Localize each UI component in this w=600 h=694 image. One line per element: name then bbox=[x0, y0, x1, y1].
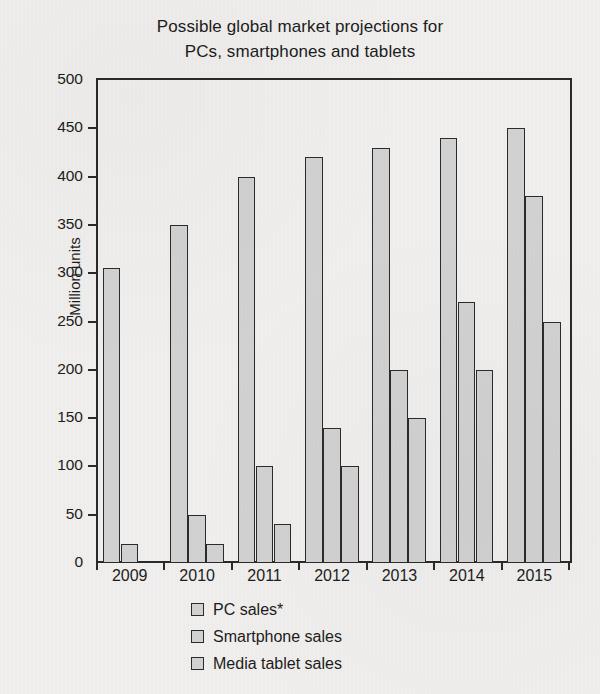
legend-label: PC sales* bbox=[213, 600, 283, 620]
bar-group-2014 bbox=[440, 80, 494, 563]
bar-2015-smartphone-sales[interactable] bbox=[525, 196, 543, 563]
legend-item[interactable]: Smartphone sales bbox=[0, 623, 600, 650]
legend-label: Media tablet sales bbox=[213, 654, 342, 674]
bar-chart-figure: Possible global market projections for P… bbox=[0, 0, 600, 694]
bar-2015-pc-sales[interactable] bbox=[507, 128, 525, 563]
bar-2010-media-tablet-sales[interactable] bbox=[206, 544, 224, 563]
legend-item-inner: Media tablet sales bbox=[191, 654, 409, 674]
y-tick-label: 250 bbox=[57, 311, 83, 331]
x-axis-label-2011: 2011 bbox=[230, 565, 300, 587]
bar-2013-smartphone-sales[interactable] bbox=[390, 370, 408, 563]
y-tick-label: 350 bbox=[57, 214, 83, 234]
y-tick-mark bbox=[88, 417, 96, 419]
chart-legend: PC sales*Smartphone salesMedia tablet sa… bbox=[0, 596, 600, 677]
x-axis-label-2013: 2013 bbox=[364, 565, 434, 587]
y-tick-mark bbox=[88, 369, 96, 371]
legend-swatch-icon bbox=[191, 657, 204, 670]
y-tick-mark bbox=[88, 127, 96, 129]
bar-2011-pc-sales[interactable] bbox=[238, 177, 256, 563]
bar-2014-smartphone-sales[interactable] bbox=[458, 302, 476, 563]
y-tick-label: 450 bbox=[57, 117, 83, 137]
y-tick-label: 100 bbox=[57, 455, 83, 475]
legend-item-inner: PC sales* bbox=[191, 600, 409, 620]
bar-2009-smartphone-sales[interactable] bbox=[121, 544, 139, 563]
bar-2010-smartphone-sales[interactable] bbox=[188, 515, 206, 563]
bar-2010-pc-sales[interactable] bbox=[170, 225, 188, 563]
y-tick-mark bbox=[88, 272, 96, 274]
y-tick-label: 0 bbox=[74, 552, 83, 572]
bar-group-2009 bbox=[103, 80, 157, 563]
x-axis-label-2012: 2012 bbox=[297, 565, 367, 587]
bar-2014-pc-sales[interactable] bbox=[440, 138, 458, 563]
bar-2011-media-tablet-sales[interactable] bbox=[274, 524, 292, 563]
bar-2013-pc-sales[interactable] bbox=[372, 148, 390, 563]
y-tick-label: 50 bbox=[66, 504, 83, 524]
x-axis-label-2015: 2015 bbox=[499, 565, 569, 587]
y-tick-mark bbox=[88, 514, 96, 516]
y-tick-mark bbox=[88, 176, 96, 178]
legend-swatch-icon bbox=[191, 603, 204, 616]
bar-2014-media-tablet-sales[interactable] bbox=[476, 370, 494, 563]
y-tick-label: 500 bbox=[57, 69, 83, 89]
bar-group-2015 bbox=[507, 80, 561, 563]
legend-label: Smartphone sales bbox=[213, 627, 342, 647]
chart-title-line-1: Possible global market projections for bbox=[0, 14, 600, 39]
bar-2013-media-tablet-sales[interactable] bbox=[408, 418, 426, 563]
legend-swatch-icon bbox=[191, 630, 204, 643]
x-axis-label-2009: 2009 bbox=[95, 565, 165, 587]
chart-title-line-2: PCs, smartphones and tablets bbox=[0, 39, 600, 64]
plot-area bbox=[98, 80, 570, 563]
y-tick-mark bbox=[88, 321, 96, 323]
legend-item[interactable]: PC sales* bbox=[0, 596, 600, 623]
chart-title: Possible global market projections for P… bbox=[0, 14, 600, 64]
y-tick-label: 150 bbox=[57, 407, 83, 427]
bar-2009-pc-sales[interactable] bbox=[103, 268, 121, 563]
bar-group-2011 bbox=[238, 80, 292, 563]
y-tick-label: 200 bbox=[57, 359, 83, 379]
legend-item-inner: Smartphone sales bbox=[191, 627, 409, 647]
bar-group-2013 bbox=[372, 80, 426, 563]
bar-2015-media-tablet-sales[interactable] bbox=[543, 322, 561, 564]
bar-2012-pc-sales[interactable] bbox=[305, 157, 323, 563]
bar-2011-smartphone-sales[interactable] bbox=[256, 466, 274, 563]
x-axis-label-2014: 2014 bbox=[432, 565, 502, 587]
y-tick-mark bbox=[88, 224, 96, 226]
bar-2012-media-tablet-sales[interactable] bbox=[341, 466, 359, 563]
bar-2012-smartphone-sales[interactable] bbox=[323, 428, 341, 563]
x-axis-label-2010: 2010 bbox=[162, 565, 232, 587]
legend-item[interactable]: Media tablet sales bbox=[0, 650, 600, 677]
y-tick-label: 400 bbox=[57, 166, 83, 186]
bar-group-2010 bbox=[170, 80, 224, 563]
y-tick-label: 300 bbox=[57, 262, 83, 282]
bar-group-2012 bbox=[305, 80, 359, 563]
y-tick-mark bbox=[88, 465, 96, 467]
